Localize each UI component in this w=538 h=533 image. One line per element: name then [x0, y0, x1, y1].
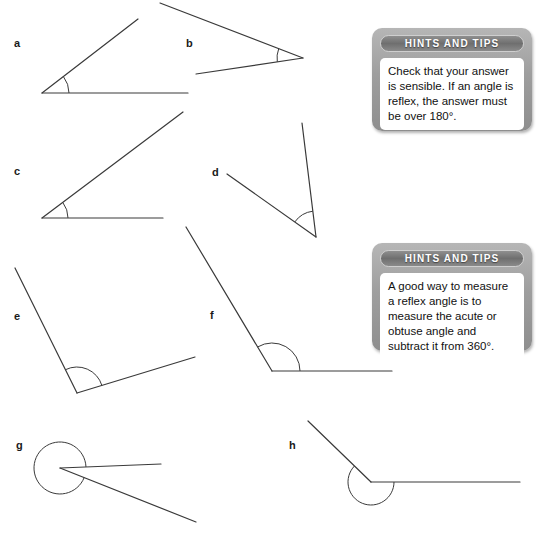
figure-label-c: c [14, 166, 20, 177]
angle-ray-g-2 [60, 468, 196, 522]
figure-label-f: f [210, 310, 214, 321]
figure-label-b: b [186, 38, 193, 49]
angle-figure-d [227, 123, 316, 237]
angle-ray-b-1 [196, 58, 303, 74]
angle-ray-g-1 [60, 464, 161, 468]
angle-ray-e-2 [15, 268, 77, 393]
hints-and-tips-title-1: HINTS AND TIPS [405, 38, 499, 49]
angle-figure-h [308, 421, 520, 505]
figure-label-a: a [14, 38, 20, 49]
angle-figure-f [186, 227, 392, 371]
angle-figure-g [34, 442, 196, 522]
angle-arc-h [348, 466, 394, 505]
hints-and-tips-text-2: A good way to measure a reflex angle is … [388, 279, 517, 354]
angle-arc-a [63, 77, 69, 93]
hints-and-tips-header-2: HINTS AND TIPS [380, 250, 524, 267]
angle-ray-b-2 [160, 3, 303, 58]
worksheet-page: abcdefgh HINTS AND TIPS Check that your … [0, 0, 538, 533]
angle-ray-d-2 [302, 123, 316, 237]
hints-and-tips-header-1: HINTS AND TIPS [380, 35, 524, 52]
angle-ray-a-2 [42, 19, 138, 93]
angle-ray-d-1 [227, 174, 316, 237]
figure-label-g: g [16, 440, 23, 451]
angle-figure-a [42, 19, 188, 93]
angle-arc-d [295, 211, 313, 222]
angle-arc-e [65, 367, 101, 385]
angle-ray-f-2 [186, 227, 272, 371]
angle-arc-b [277, 49, 279, 62]
angle-figure-c [42, 112, 183, 218]
angle-figure-b [160, 3, 303, 74]
hints-and-tips-box-1: HINTS AND TIPS Check that your answer is… [372, 28, 532, 131]
hints-and-tips-text-1: Check that your answer is sensible. If a… [388, 64, 517, 124]
hints-and-tips-title-2: HINTS AND TIPS [405, 253, 499, 264]
angle-arc-c [63, 202, 68, 218]
figure-label-h: h [289, 440, 296, 451]
hints-and-tips-body-2: A good way to measure a reflex angle is … [380, 273, 524, 360]
angle-ray-e-1 [77, 357, 195, 393]
figure-label-e: e [14, 311, 20, 322]
angle-ray-c-2 [42, 112, 183, 218]
angle-figure-e [15, 268, 195, 393]
hints-and-tips-box-2: HINTS AND TIPS A good way to measure a r… [372, 243, 532, 351]
hints-and-tips-body-1: Check that your answer is sensible. If a… [380, 58, 524, 130]
angle-ray-h-2 [308, 421, 371, 482]
figure-label-d: d [212, 167, 219, 178]
